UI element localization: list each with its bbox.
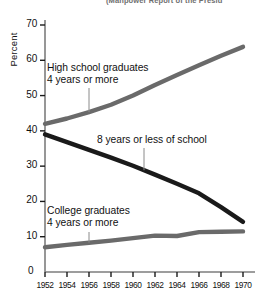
y-axis-tick-30: 30 — [13, 159, 37, 170]
series-label-line1: 8 years or less of school — [97, 134, 207, 145]
y-axis-tick-70: 70 — [13, 18, 37, 29]
y-axis-tick-40: 40 — [13, 124, 37, 135]
y-axis-tick-10: 10 — [13, 230, 37, 241]
series-label-college-graduates: College graduates 4 years or more — [47, 205, 130, 230]
chart-canvas — [0, 0, 267, 304]
series-line-college-graduates — [45, 231, 243, 247]
x-axis-tick-1970: 1970 — [230, 280, 256, 290]
series-label-eight-years-or-less: 8 years or less of school — [97, 134, 207, 146]
origin-label: 0 — [28, 265, 34, 276]
y-axis-tick-20: 20 — [13, 194, 37, 205]
series-label-line1: College graduates — [47, 205, 130, 216]
education-attainment-line-chart: (Manpower Report of the Presid Percent 1… — [0, 0, 267, 304]
series-label-line2: 4 years or more — [47, 217, 118, 228]
series-label-line2: 4 years or more — [47, 74, 118, 85]
series-label-high-school-graduates: High school graduates 4 years or more — [47, 62, 148, 87]
series-label-line1: High school graduates — [47, 62, 148, 73]
y-axis-tick-50: 50 — [13, 89, 37, 100]
y-axis-tick-60: 60 — [13, 53, 37, 64]
